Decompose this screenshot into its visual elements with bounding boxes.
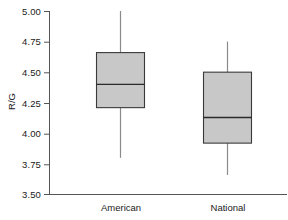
y-tick-label-4.75: 4.75 [0,36,41,47]
box-rect-american [97,53,145,108]
y-tick-label-3.75: 3.75 [0,159,41,170]
y-axis-title: R/G [6,82,17,122]
y-tick-label-4.50: 4.50 [0,67,41,78]
boxplot-canvas [0,0,288,220]
y-tick-label-4.00: 4.00 [0,128,41,139]
box-american [97,11,145,158]
x-category-label-american: American [85,202,157,213]
boxplot-figure: 5.00 4.75 4.50 4.25 4.00 3.75 3.50 R/G A… [0,0,288,220]
box-rect-national [204,72,252,143]
box-national [204,42,252,175]
y-tick-label-3.50: 3.50 [0,189,41,200]
y-tick-label-5.00: 5.00 [0,6,41,17]
x-category-label-national: National [192,202,264,213]
